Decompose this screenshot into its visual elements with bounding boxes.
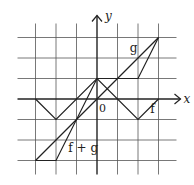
graph-canvas: x y 0 f g f + g (0, 0, 194, 185)
labels: x y 0 f g f + g (68, 9, 190, 156)
function-graph: x y 0 f g f + g (0, 0, 194, 185)
curve-label-f-plus-g: f + g (68, 141, 98, 155)
origin-label: 0 (99, 102, 106, 115)
x-axis-label: x (184, 92, 191, 106)
y-axis-label: y (104, 9, 112, 23)
curve-label-g: g (130, 41, 138, 55)
curve-label-f: f (150, 102, 156, 116)
